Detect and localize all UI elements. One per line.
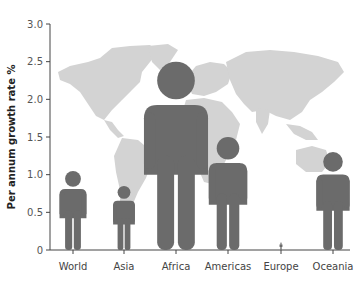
x-axis-ticks: WorldAsiaAfricaAmericasEuropeOceania — [59, 250, 354, 272]
person-figure-world — [60, 171, 87, 250]
category-label-world: World — [59, 261, 88, 272]
map-se-asia — [286, 124, 318, 140]
map-north-america — [58, 45, 158, 120]
y-axis-ticks: 00.51.01.52.02.53.0 — [27, 19, 50, 256]
map-asia — [226, 50, 344, 120]
y-tick-label: 1.5 — [27, 132, 43, 143]
category-label-europe: Europe — [263, 261, 298, 272]
y-tick-label: 2.5 — [27, 56, 43, 67]
category-label-oceania: Oceania — [313, 261, 354, 272]
person-figure-europe — [280, 242, 283, 250]
y-tick-label: 3.0 — [27, 19, 43, 30]
y-tick-label: 0 — [37, 245, 43, 256]
y-tick-label: 0.5 — [27, 207, 43, 218]
y-tick-label: 1.0 — [27, 169, 43, 180]
map-central-america — [104, 120, 124, 138]
map-india — [256, 108, 270, 134]
category-label-africa: Africa — [162, 261, 191, 272]
population-growth-chart: 00.51.01.52.02.53.0 WorldAsiaAfricaAmeri… — [0, 0, 364, 284]
y-tick-label: 2.0 — [27, 94, 43, 105]
category-label-asia: Asia — [114, 261, 135, 272]
category-label-americas: Americas — [205, 261, 251, 272]
y-axis-label: Per annum growth rate % — [6, 65, 17, 210]
